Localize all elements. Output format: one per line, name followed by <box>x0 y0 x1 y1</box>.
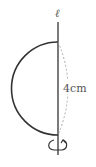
dimension-label: 4cm <box>63 82 87 95</box>
rotation-diagram: ℓ 4cm <box>0 0 96 167</box>
axis-label: ℓ <box>55 7 60 20</box>
semicircle-arc <box>12 42 59 135</box>
